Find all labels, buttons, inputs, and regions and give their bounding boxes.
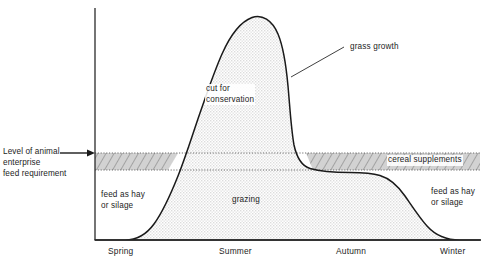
grass-growth-leader-line (291, 47, 344, 77)
grass-growth-diagram (0, 0, 491, 264)
annotation-cut-for-conservation: cut for conservation (205, 84, 255, 105)
annotation-feed-as-hay-winter: feed as hay or silage (430, 187, 476, 208)
annotation-feed-as-hay-spring: feed as hay or silage (100, 190, 146, 211)
x-tick-label-autumn: Autumn (336, 246, 366, 256)
annotation-grass-growth: grass growth (350, 42, 399, 53)
annotation-cereal-supplements: cereal supplements (387, 155, 463, 166)
x-tick-label-spring: Spring (108, 246, 133, 256)
grass-growth-area (95, 17, 480, 241)
requirement-level-label: Level of animal enterprise feed requirem… (3, 147, 67, 179)
annotation-grazing: grazing (232, 195, 260, 206)
x-tick-label-winter: Winter (440, 246, 465, 256)
x-tick-label-summer: Summer (219, 246, 252, 256)
